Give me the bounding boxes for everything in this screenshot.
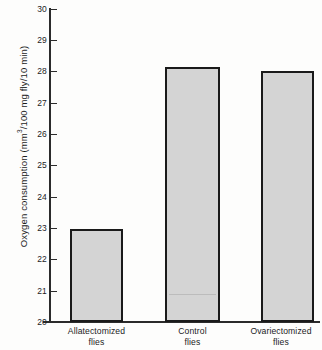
y-tick-mark-26 xyxy=(51,134,57,135)
bar-chart-figure: Oxygen consumption (mm3/100 mg fly/10 mi… xyxy=(0,0,322,350)
y-tick-label-28: 28 xyxy=(27,66,47,76)
bar-texture-line xyxy=(169,294,216,295)
x-axis-label-line-1: Allatectomized xyxy=(48,326,145,337)
y-tick-mark-29 xyxy=(51,40,57,41)
y-tick-mark-25 xyxy=(51,165,57,166)
y-tick-label-24: 24 xyxy=(27,192,47,202)
y-tick-label-29: 29 xyxy=(27,35,47,45)
x-axis-label-control-flies: Control flies xyxy=(150,326,235,347)
y-tick-label-30: 30 xyxy=(27,4,47,14)
x-axis-label-line-2: flies xyxy=(48,337,145,348)
y-tick-mark-24 xyxy=(51,197,57,198)
y-tick-label-25: 25 xyxy=(27,160,47,170)
x-axis-label-ovariectomized-flies: Ovariectomized flies xyxy=(240,326,322,347)
x-axis-label-line-1: Ovariectomized xyxy=(240,326,322,337)
x-axis-label-allatectomized-flies: Allatectomized flies xyxy=(48,326,145,347)
bar-control-flies xyxy=(165,67,220,322)
y-tick-mark-21 xyxy=(51,291,57,292)
y-tick-label-23: 23 xyxy=(27,223,47,233)
y-tick-mark-30 xyxy=(51,9,57,10)
y-axis-title-after: /100 mg fly/10 min) xyxy=(18,46,29,130)
y-tick-mark-23 xyxy=(51,228,57,229)
y-tick-label-21: 21 xyxy=(27,286,47,296)
x-axis-label-line-2: flies xyxy=(150,337,235,348)
bar-allatectomized-flies xyxy=(70,229,123,322)
y-tick-mark-22 xyxy=(51,259,57,260)
y-tick-label-20: 20 xyxy=(27,317,47,327)
x-axis-label-line-1: Control xyxy=(150,326,235,337)
x-axis-label-line-2: flies xyxy=(240,337,322,348)
y-axis-title-superscript: 3 xyxy=(16,129,23,133)
y-tick-label-22: 22 xyxy=(27,254,47,264)
bar-ovariectomized-flies xyxy=(261,71,314,322)
y-tick-mark-28 xyxy=(51,71,57,72)
y-tick-mark-27 xyxy=(51,103,57,104)
y-tick-label-27: 27 xyxy=(27,98,47,108)
y-tick-label-26: 26 xyxy=(27,129,47,139)
